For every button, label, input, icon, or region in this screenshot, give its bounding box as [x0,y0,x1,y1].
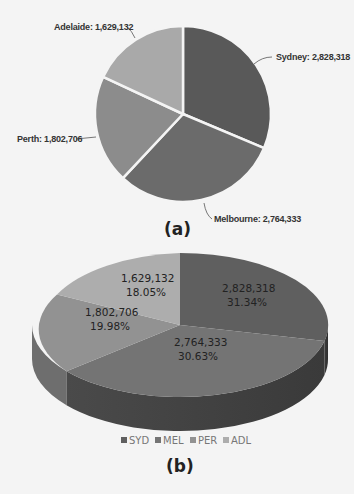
legend-swatch-per [190,437,196,443]
label-adl-pct: 18.05% [126,286,166,298]
label-melbourne: Melbourne: 2,764,333 [214,214,301,224]
legend-label-adl: ADL [231,435,252,446]
label-perth: Perth: 1,802,706 [17,134,83,144]
legend-label-syd: SYD [129,435,149,446]
label-mel-value: 2,764,333 [174,336,227,348]
legend-swatch-mel [155,437,161,443]
legend: SYD MEL PER ADL [121,435,252,446]
label-adelaide: Adelaide: 1,629,132 [54,22,133,32]
label-sydney: Sydney: 2,828,318 [276,52,350,62]
label-per-pct: 19.98% [90,320,130,332]
figure: Sydney: 2,828,318 Melbourne: 2,764,333 P… [0,0,354,494]
caption-a: (a) [164,219,191,239]
pie-chart-b: 2,828,318 31.34% 2,764,333 30.63% 1,802,… [32,253,328,476]
pie-chart-a: Sydney: 2,828,318 Melbourne: 2,764,333 P… [17,22,350,239]
leader-line-sydney [254,57,272,64]
leader-line-melbourne [204,203,212,219]
legend-swatch-syd [121,437,127,443]
legend-swatch-adl [223,437,229,443]
label-mel-pct: 30.63% [178,350,218,362]
label-per-value: 1,802,706 [85,306,139,318]
label-adl-value: 1,629,132 [121,272,174,284]
label-syd-value: 2,828,318 [222,282,275,294]
label-syd-pct: 31.34% [227,296,267,308]
caption-b: (b) [166,456,194,476]
legend-label-per: PER [198,435,217,446]
legend-label-mel: MEL [163,435,184,446]
